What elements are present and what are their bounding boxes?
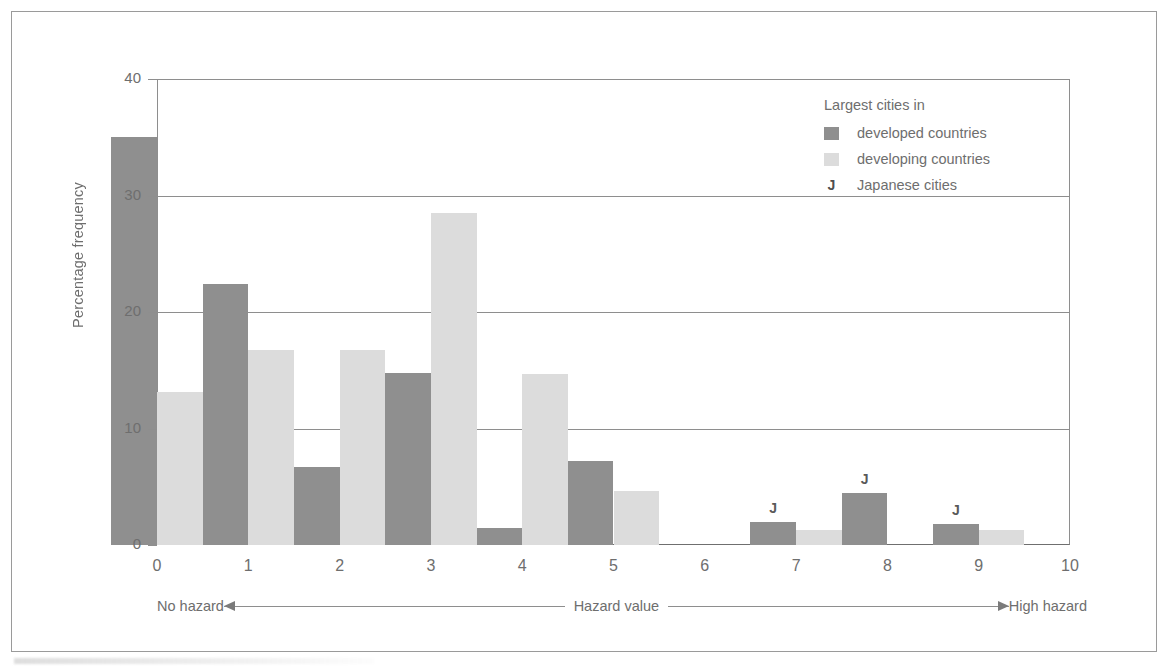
hazard-axis-right-line: [668, 606, 1009, 607]
scan-artifact: [14, 658, 374, 664]
y-tick-label-40: 40: [12, 69, 141, 86]
high-hazard-label: High hazard: [1009, 598, 1087, 614]
x-tick-label-0: 0: [153, 557, 162, 575]
j-marker-7: J: [769, 500, 777, 516]
hazard-axis-right-segment: [668, 600, 1009, 613]
y-tick-mark-40: [148, 79, 157, 80]
bar-developing-4: [522, 374, 568, 545]
y-tick-mark-0: [148, 545, 157, 546]
x-tick-label-6: 6: [700, 557, 709, 575]
x-tick-label-3: 3: [426, 557, 435, 575]
bar-developed-7: [750, 522, 796, 545]
hazard-axis-left-segment: [224, 600, 565, 613]
gridline-20: [157, 312, 1070, 313]
bar-developed-9: [933, 524, 979, 545]
bar-developing-1: [248, 350, 294, 545]
x-tick-label-9: 9: [974, 557, 983, 575]
j-marker-8: J: [861, 471, 869, 487]
y-tick-mark-10: [148, 429, 157, 430]
arrow-right-icon: [998, 601, 1009, 611]
bar-developed-2: [294, 467, 340, 545]
bar-developed-1: [203, 284, 249, 545]
bar-developed-4: [477, 528, 523, 545]
legend-item-developing: developing countries: [824, 152, 990, 167]
bar-developing-9: [979, 530, 1025, 545]
bar-developing-3: [431, 213, 477, 545]
bar-developing-0: [157, 392, 203, 545]
bar-developed-5: [568, 461, 614, 545]
gridline-40: [157, 79, 1070, 80]
x-tick-label-5: 5: [609, 557, 618, 575]
x-tick-label-2: 2: [335, 557, 344, 575]
y-tick-label-30: 30: [12, 186, 141, 203]
bar-developing-5: [614, 491, 660, 545]
hazard-direction-axis: No hazard Hazard value High hazard: [157, 593, 1087, 619]
legend-title: Largest cities in: [824, 98, 990, 113]
hazard-axis-left-line: [224, 606, 565, 607]
x-tick-label-7: 7: [792, 557, 801, 575]
no-hazard-label: No hazard: [157, 598, 224, 614]
y-tick-mark-20: [148, 312, 157, 313]
bar-developing-2: [340, 350, 386, 545]
arrow-left-icon: [224, 601, 235, 611]
x-tick-label-1: 1: [244, 557, 253, 575]
x-tick-label-4: 4: [518, 557, 527, 575]
chart-legend: Largest cities in developed countries de…: [824, 98, 990, 204]
x-tick-label-8: 8: [883, 557, 892, 575]
legend-swatch-developing-icon: [824, 153, 839, 166]
legend-item-developed: developed countries: [824, 126, 990, 141]
legend-j-marker-icon: J: [824, 178, 839, 192]
y-tick-mark-30: [148, 196, 157, 197]
y-tick-label-0: 0: [12, 535, 141, 552]
figure-outer-frame: Percentage frequency JJJ 010203040 01234…: [11, 11, 1157, 652]
x-tick-label-10: 10: [1061, 557, 1079, 575]
legend-item-japanese: J Japanese cities: [824, 178, 990, 193]
legend-label-developing: developing countries: [857, 152, 990, 167]
bar-developing-7: [796, 530, 842, 545]
legend-swatch-developed-icon: [824, 127, 839, 140]
legend-label-developed: developed countries: [857, 126, 987, 141]
legend-label-japanese: Japanese cities: [857, 178, 957, 193]
j-marker-9: J: [952, 502, 960, 518]
hazard-value-label: Hazard value: [565, 598, 668, 614]
bar-developed-3: [385, 373, 431, 545]
bar-developed-8: [842, 493, 888, 545]
gridline-10: [157, 429, 1070, 430]
y-tick-label-20: 20: [12, 302, 141, 319]
y-tick-label-10: 10: [12, 419, 141, 436]
